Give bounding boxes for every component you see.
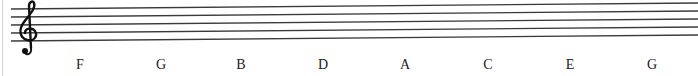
staff-line-5 — [11, 35, 698, 41]
staff-line-1 — [11, 3, 698, 9]
staff-line-4 — [11, 27, 698, 33]
staff-lines — [11, 3, 698, 41]
note-label-c: C — [483, 58, 492, 72]
note-label-f: F — [76, 58, 84, 72]
note-label-g: G — [156, 58, 166, 72]
note-label-g-high: G — [647, 58, 657, 72]
note-label-a: A — [400, 58, 410, 72]
treble-clef-dot — [22, 48, 28, 54]
note-label-d: D — [318, 58, 328, 72]
staff-line-2 — [11, 11, 698, 17]
music-staff — [0, 0, 698, 76]
note-label-e: E — [566, 58, 575, 72]
note-label-b: B — [236, 58, 245, 72]
staff-line-3 — [11, 19, 698, 25]
